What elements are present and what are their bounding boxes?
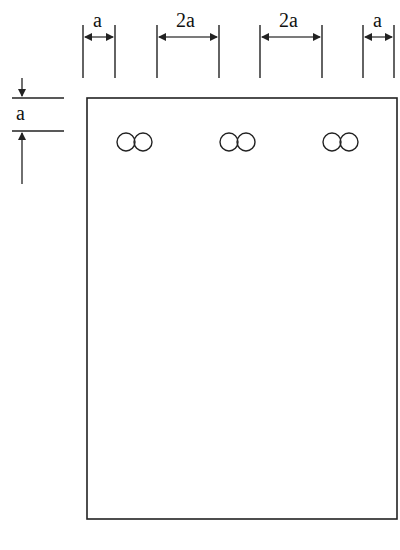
hole-pairs [117,133,358,151]
diagram-canvas [0,0,400,550]
plate-outline [87,98,397,519]
dim-label-a-right: a [373,10,382,30]
side-dimension [12,78,64,184]
top-extension-lines [83,25,394,78]
dim-label-2a-second: 2a [279,10,298,30]
dim-label-2a-first: 2a [176,10,195,30]
dim-label-a-left: a [93,10,102,30]
dim-label-a-side: a [16,103,25,123]
